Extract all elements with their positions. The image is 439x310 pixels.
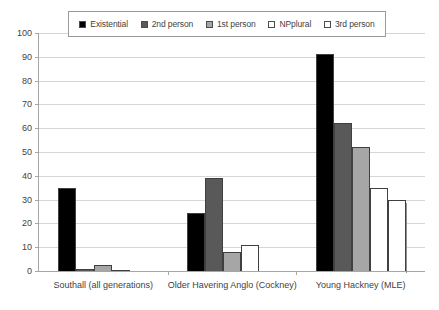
bar-groups: Southall (all generations)Older Havering…: [39, 33, 425, 271]
y-axis-tick-label: 60: [22, 123, 32, 133]
bar[interactable]: [76, 269, 94, 271]
bar[interactable]: [223, 252, 241, 271]
legend-swatch-icon: [324, 21, 331, 28]
y-axis-tick-label: 80: [22, 76, 32, 86]
y-axis-tick-label: 90: [22, 52, 32, 62]
x-axis-category-label: Southall (all generations): [39, 280, 168, 290]
legend-item[interactable]: NPplural: [268, 19, 311, 29]
y-axis-tick-label: 0: [27, 266, 32, 276]
legend-label: 3rd person: [335, 19, 375, 29]
legend-label: 2nd person: [152, 19, 194, 29]
plot-area: 1009080706050403020100 Southall (all gen…: [38, 33, 425, 272]
bar-group: Southall (all generations): [39, 33, 168, 271]
y-axis-tick-label: 50: [22, 147, 32, 157]
y-axis-tick-label: 100: [17, 28, 32, 38]
x-axis-group-separator: [296, 271, 297, 275]
legend-label: Existential: [90, 19, 128, 29]
bar-chart: Existential2nd person1st personNPplural3…: [0, 0, 439, 310]
legend-label: 1st person: [217, 19, 256, 29]
y-axis-tick-label: 10: [22, 242, 32, 252]
legend-swatch-icon: [79, 21, 86, 28]
plot-right-rule: [406, 203, 407, 273]
y-axis-tick: [35, 271, 39, 272]
legend-swatch-icon: [206, 21, 213, 28]
bar[interactable]: [112, 270, 130, 271]
bar[interactable]: [58, 188, 76, 271]
y-axis-tick-label: 40: [22, 171, 32, 181]
legend-swatch-icon: [268, 21, 275, 28]
legend-item[interactable]: Existential: [79, 19, 128, 29]
bar[interactable]: [241, 245, 259, 271]
x-axis-group-separator: [168, 271, 169, 275]
y-axis-tick-label: 70: [22, 99, 32, 109]
y-axis-tick-label: 20: [22, 218, 32, 228]
legend-item[interactable]: 1st person: [206, 19, 256, 29]
y-axis-tick-label: 30: [22, 195, 32, 205]
legend-swatch-icon: [141, 21, 148, 28]
bar[interactable]: [370, 188, 388, 271]
chart-legend: Existential2nd person1st personNPplural3…: [68, 11, 386, 37]
bar[interactable]: [94, 265, 112, 271]
bar[interactable]: [205, 178, 223, 271]
bar[interactable]: [334, 123, 352, 271]
x-axis-category-label: Older Havering Anglo (Cockney): [168, 280, 297, 290]
bar[interactable]: [388, 200, 406, 271]
bar-group: Older Havering Anglo (Cockney): [168, 33, 297, 271]
legend-item[interactable]: 2nd person: [141, 19, 194, 29]
legend-label: NPplural: [279, 19, 311, 29]
bar[interactable]: [352, 147, 370, 271]
bar[interactable]: [316, 54, 334, 271]
legend-item[interactable]: 3rd person: [324, 19, 375, 29]
x-axis-category-label: Young Hackney (MLE): [296, 280, 425, 290]
bar[interactable]: [187, 213, 205, 271]
